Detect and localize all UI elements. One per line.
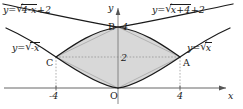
y-tick-label-2: 2 [121,53,127,63]
y-axis-arrow [116,8,121,15]
point-label-c: C [46,58,53,68]
eq-prefix: y= [152,4,165,15]
math-figure: y=4-x+2 y=x+4+2 y=-x y=x B 4 A C 2 O -4 … [0,0,243,109]
eq-radicand: 4-x [21,4,37,15]
eq-prefix: y= [3,4,16,15]
equation-label-top-right: y=x+4+2 [152,3,205,14]
eq-suffix: +2 [37,4,51,15]
eq-radicand: x+4 [170,4,190,15]
equation-label-top-left: y=4-x+2 [3,3,51,14]
equation-label-mid-right: y=x [187,41,212,52]
eq-prefix: y= [12,42,25,53]
equation-label-mid-left: y=-x [12,41,40,52]
x-axis-label: x [228,91,233,101]
x-axis-arrow [219,86,226,91]
point-label-b: B [108,22,115,32]
eq-suffix: +2 [191,4,205,15]
point-label-a: A [183,58,190,68]
eq-radicand: x [205,42,211,53]
eq-prefix: y= [187,42,200,53]
x-tick-label-neg4: -4 [49,91,58,101]
y-axis-label: y [108,3,113,13]
eq-radicand: -x [30,42,40,53]
point-label-origin: O [110,91,118,101]
y-tick-label-4: 4 [122,22,128,32]
x-tick-label-4: 4 [177,91,183,101]
